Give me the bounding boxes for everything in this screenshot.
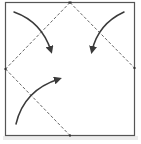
paper-shadow [3, 136, 138, 140]
vertex-left [5, 68, 7, 70]
diagram-svg [0, 0, 141, 144]
paper-square [6, 3, 135, 136]
vertex-right [134, 67, 136, 69]
vertex-bottom [69, 135, 71, 137]
origami-diagram [0, 0, 141, 144]
vertex-top [69, 2, 72, 4]
